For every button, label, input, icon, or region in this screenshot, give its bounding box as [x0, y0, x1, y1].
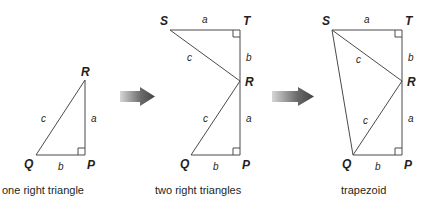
caption-one-right-triangle: one right triangle [2, 184, 84, 196]
side-label-upper-b: b [246, 52, 252, 63]
side-label-bottom-b: b [375, 161, 381, 172]
side-label-lower-c: c [203, 113, 208, 124]
side-label-c: c [41, 113, 46, 124]
trapezoid-outline [332, 30, 402, 155]
vertex-s: S [160, 14, 168, 28]
vertex-t: T [243, 14, 252, 28]
caption-two-right-triangles: two right triangles [155, 184, 242, 196]
figure-two-right-triangles: S T R Q P a c b c a b two right triangle… [155, 14, 254, 196]
figure-trapezoid: S T R Q P a c b c a b trapezoid [322, 14, 416, 196]
arrow-right-icon [120, 87, 155, 106]
trapezoid-proof-diagram: R Q P c a b one right triangle S T R Q P… [0, 0, 431, 207]
side-label-a: a [91, 113, 97, 124]
two-triangles-outline [170, 30, 240, 155]
vertex-p: P [242, 158, 251, 172]
right-angle-marker-p [233, 148, 240, 155]
vertex-q: Q [24, 157, 34, 171]
caption-trapezoid: trapezoid [341, 184, 386, 196]
side-label-upper-c: c [356, 54, 361, 65]
side-label-upper-b: b [408, 52, 414, 63]
side-label-bottom-b: b [213, 161, 219, 172]
vertex-r: R [407, 75, 416, 89]
right-angle-marker-p [78, 148, 85, 155]
vertex-t: T [405, 14, 414, 28]
vertex-r: R [245, 75, 254, 89]
side-label-b: b [58, 161, 64, 172]
right-angle-marker-t [233, 30, 240, 37]
side-label-top-a: a [364, 14, 370, 25]
right-angle-marker-t [395, 30, 402, 37]
vertex-r: R [81, 65, 90, 79]
vertex-p: P [87, 158, 96, 172]
side-label-lower-a: a [246, 113, 252, 124]
right-angle-marker-p [395, 148, 402, 155]
side-label-upper-c: c [187, 52, 192, 63]
side-label-lower-a: a [408, 113, 414, 124]
side-label-lower-c: c [363, 115, 368, 126]
vertex-q: Q [342, 157, 352, 171]
vertex-p: P [404, 158, 413, 172]
vertex-s: S [322, 14, 330, 28]
arrow-right-icon [272, 87, 314, 106]
vertex-q: Q [180, 157, 190, 171]
side-label-top-a: a [202, 14, 208, 25]
figure-one-right-triangle: R Q P c a b one right triangle [2, 65, 97, 196]
